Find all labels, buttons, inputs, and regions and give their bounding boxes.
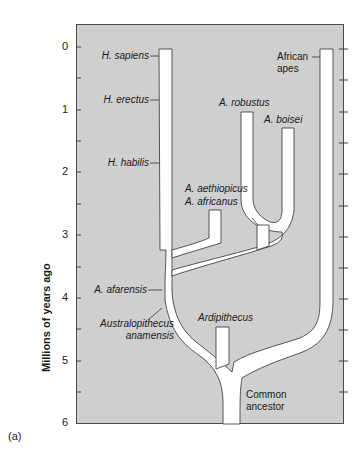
label-common-ancestor-line2: ancestor [246,401,284,413]
y-tick-6: 6 [48,416,68,428]
y-tick-0: 0 [48,40,68,52]
y-tick-2: 2 [48,165,68,177]
right-axis-ticks [339,49,348,392]
label-a-boisei: A. boisei [264,114,302,126]
label-h-erectus: H. erectus [90,94,149,106]
label-african-apes-line1: African [277,51,308,63]
phylogeny-tree [0,0,362,452]
label-h-sapiens: H. sapiens [90,50,149,62]
y-tick-1: 1 [48,103,68,115]
label-h-habilis: H. habilis [90,157,149,169]
label-african-apes-line2: apes [277,63,299,75]
label-anamensis-line1: Australopithecus [78,318,174,330]
label-ardipithecus: Ardipithecus [198,312,253,324]
label-a-robustus: A. robustus [219,97,270,109]
label-a-aethiopicus: A. aethiopicus [185,183,248,195]
y-axis-label: Millions of years ago [40,263,52,372]
label-a-africanus: A. africanus [185,196,238,208]
label-anamensis-line2: anamensis [78,330,174,342]
panel-label: (a) [8,430,21,442]
label-common-ancestor-line1: Common [246,389,287,401]
y-tick-3: 3 [48,228,68,240]
label-a-afarensis: A. afarensis [80,284,147,296]
